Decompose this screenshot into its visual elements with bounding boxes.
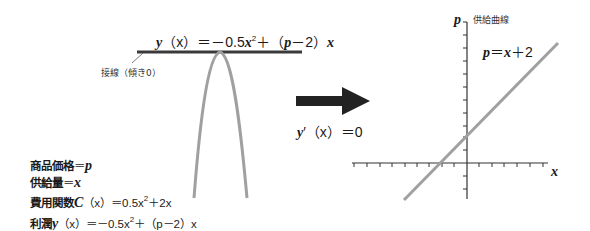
def-label: 商品価格: [30, 159, 74, 173]
line-eq-x: x: [504, 45, 511, 60]
def-fn: C: [74, 195, 83, 210]
profit-parabola: [194, 52, 247, 198]
definition-price: 商品価格＝p: [30, 158, 197, 175]
p-axis-var: p: [454, 12, 461, 27]
eq-coef: ＝－0.5: [197, 34, 244, 50]
def-rhs2: ＋（p－2）x: [134, 218, 197, 230]
derivative-condition: y′（x）＝0: [297, 121, 363, 141]
eq-x: x: [245, 35, 252, 50]
p-axis-label: p: [454, 12, 461, 28]
x-axis-var: x: [551, 164, 558, 179]
eq-mid: ＋（: [256, 34, 284, 50]
line-eq-eq: ＝: [490, 44, 504, 60]
def-rhs: ＝－0.5x: [86, 218, 130, 230]
def-label: 利潤: [30, 217, 52, 231]
def-rhs2: ＋2x: [148, 197, 171, 209]
profit-equation-title: y（x）＝－0.5x2＋（p－2）x: [156, 31, 334, 51]
def-arg: （x）: [83, 197, 111, 209]
supply-line: [404, 43, 558, 200]
x-axis-label: x: [551, 164, 558, 180]
def-rhs: ＝0.5x: [111, 197, 144, 209]
deriv-rhs: ＝0: [341, 124, 363, 140]
definition-profit: 利潤y（x）＝－0.5x2＋（p－2）x: [30, 212, 197, 231]
deriv-arg: （x）: [306, 124, 341, 140]
def-label: 供給量: [30, 176, 63, 190]
line-eq-rhs: ＋2: [511, 44, 533, 60]
supply-curve-title: 供給曲線: [473, 13, 509, 26]
line-eq-p: p: [483, 45, 490, 60]
def-label: 費用関数: [30, 196, 74, 210]
definition-cost-function: 費用関数C（x）＝0.5x2＋2x: [30, 191, 197, 212]
def-arg: （x）: [58, 218, 86, 230]
tangent-label: 接線（傾き0）: [101, 66, 161, 79]
right-arrow-icon: [296, 87, 370, 115]
supply-line-equation: p＝x＋2: [483, 41, 533, 61]
definition-quantity: 供給量＝x: [30, 175, 197, 192]
definitions-block: 商品価格＝p 供給量＝x 費用関数C（x）＝0.5x2＋2x 利潤y（x）＝－0…: [30, 158, 197, 230]
def-eq: ＝: [63, 177, 74, 189]
eq-arg: （x）: [162, 34, 197, 50]
eq-mid2: －2）: [291, 34, 327, 50]
tangent-leader-line: [132, 53, 143, 63]
def-var: x: [74, 175, 81, 190]
def-eq: ＝: [74, 160, 85, 172]
def-var: p: [85, 158, 92, 173]
eq-xend: x: [327, 35, 334, 50]
